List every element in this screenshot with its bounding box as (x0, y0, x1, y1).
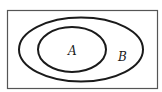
set-b-label: B (117, 50, 127, 64)
set-a-label: A (67, 44, 77, 58)
venn-diagram: A B (0, 0, 162, 92)
universal-set-rectangle (8, 11, 158, 89)
